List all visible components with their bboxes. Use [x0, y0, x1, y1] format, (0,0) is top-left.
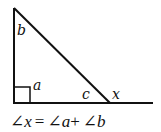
- angle-label-x: x: [112, 86, 120, 102]
- angle-symbol: ∠: [83, 112, 97, 131]
- equation-equals: =: [35, 112, 45, 131]
- equation: ∠x=∠a+∠b: [10, 112, 105, 131]
- hypotenuse: [14, 8, 110, 103]
- angle-symbol: ∠: [47, 112, 61, 131]
- angle-label-c: c: [82, 86, 90, 102]
- right-angle-marker: [14, 87, 30, 103]
- equation-b: b: [97, 112, 106, 131]
- angle-label-a: a: [33, 77, 41, 93]
- equation-x: x: [23, 112, 32, 131]
- angle-symbol: ∠: [10, 112, 24, 131]
- triangle-diagram: b a c x ∠x=∠a+∠b: [0, 0, 161, 132]
- equation-plus: +: [70, 112, 80, 131]
- angle-label-b: b: [17, 22, 26, 38]
- equation-a: a: [62, 112, 71, 131]
